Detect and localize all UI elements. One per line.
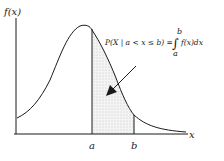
integral-lower-limit: a bbox=[173, 49, 178, 58]
tick-label-b: b bbox=[131, 140, 137, 151]
y-axis-label: f(x) bbox=[3, 6, 21, 17]
x-axis-label: x bbox=[189, 129, 195, 140]
formula-integrand: f(x)dx bbox=[180, 38, 204, 47]
pdf-diagram: f(x) x a b P(X | a < x ≤ b) = ∫ b a f(x)… bbox=[0, 0, 224, 161]
integral-upper-limit: b bbox=[177, 27, 182, 36]
formula-lhs: P(X | a < x ≤ b) = bbox=[104, 38, 173, 47]
tick-label-a: a bbox=[89, 140, 95, 151]
